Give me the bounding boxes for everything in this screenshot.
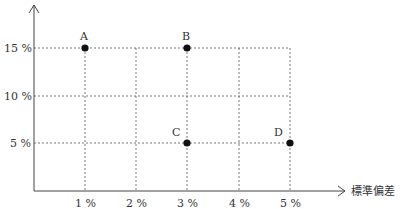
point-c <box>183 139 190 146</box>
point-b-label: B <box>182 30 190 43</box>
grid-lines <box>34 48 290 191</box>
scatter-chart: A B C D 15 % 10 % 5 % 1 % 2 % 3 % 4 % 5 … <box>0 0 400 209</box>
point-a <box>81 44 88 51</box>
data-points <box>81 44 293 146</box>
x-axis-label: 標準偏差 <box>351 184 395 198</box>
x-tick-4: 4 % <box>229 197 250 209</box>
point-d-label: D <box>274 126 283 139</box>
x-tick-5: 5 % <box>280 197 301 209</box>
point-c-label: C <box>172 126 180 139</box>
y-tick-10: 10 % <box>4 90 32 103</box>
y-tick-5: 5 % <box>10 137 31 150</box>
y-tick-15: 15 % <box>4 42 32 55</box>
x-tick-3: 3 % <box>177 197 198 209</box>
point-a-label: A <box>79 30 89 43</box>
x-tick-2: 2 % <box>126 197 147 209</box>
point-b <box>183 44 190 51</box>
point-d <box>286 139 293 146</box>
x-tick-1: 1 % <box>75 197 96 209</box>
